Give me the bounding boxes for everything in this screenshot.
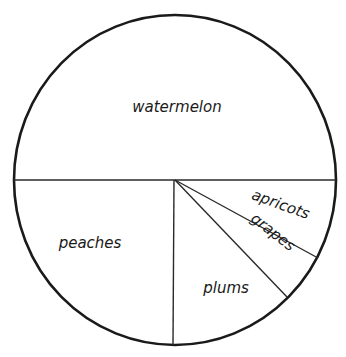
label-peaches: peaches — [58, 234, 122, 252]
label-plums: plums — [202, 279, 249, 297]
divider-peaches-plums — [173, 180, 174, 345]
label-watermelon: watermelon — [132, 98, 221, 116]
pie-chart: watermelon peaches plums grapes apricots — [0, 0, 346, 357]
